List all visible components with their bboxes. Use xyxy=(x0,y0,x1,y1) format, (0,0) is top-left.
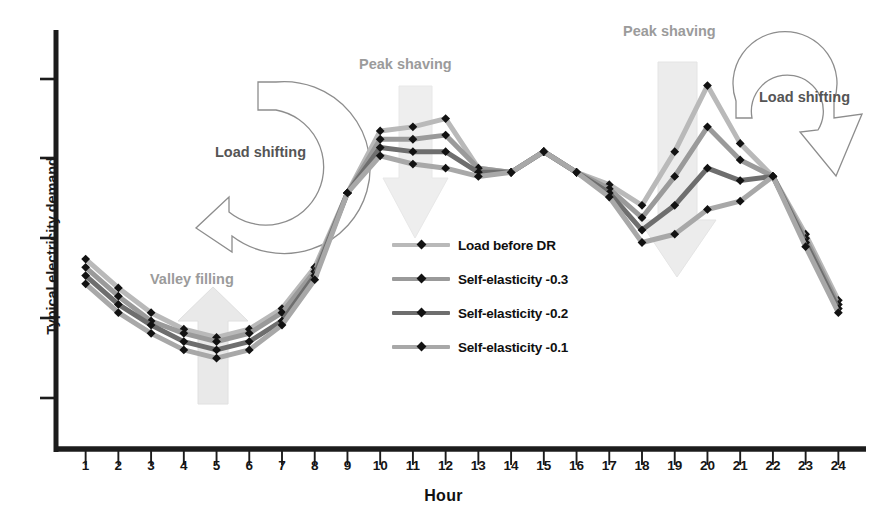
x-axis-title: Hour xyxy=(0,487,887,505)
legend-item-label: Self-elasticity -0.2 xyxy=(458,306,568,321)
annotation-load-shifting-left: Load shifting xyxy=(215,144,306,160)
legend-swatch-icon xyxy=(392,234,450,256)
annotation-peak-shaving-midday: Peak shaving xyxy=(359,56,452,72)
legend-swatch-icon xyxy=(392,302,450,324)
x-tick-label: 24 xyxy=(818,458,858,473)
y-axis-title: Typical electricity demand xyxy=(44,116,60,376)
legend-item: Self-elasticity -0.3 xyxy=(392,262,602,296)
legend-item-label: Self-elasticity -0.3 xyxy=(458,272,568,287)
chart-figure: Typical electricity demand Hour 12345678… xyxy=(0,0,887,529)
annotation-valley-filling: Valley filling xyxy=(150,271,234,287)
annotation-peak-shaving-evening: Peak shaving xyxy=(623,23,716,39)
legend-swatch-icon xyxy=(392,336,450,358)
legend-swatch-icon xyxy=(392,268,450,290)
chart-legend: Load before DRSelf-elasticity -0.3Self-e… xyxy=(392,228,602,364)
legend-item-label: Self-elasticity -0.1 xyxy=(458,340,568,355)
legend-item: Self-elasticity -0.1 xyxy=(392,330,602,364)
legend-item-label: Load before DR xyxy=(458,238,556,253)
annotation-load-shifting-right: Load shifting xyxy=(759,89,850,105)
load-shifting-left-arrow xyxy=(196,82,370,254)
legend-item: Load before DR xyxy=(392,228,602,262)
legend-item: Self-elasticity -0.2 xyxy=(392,296,602,330)
